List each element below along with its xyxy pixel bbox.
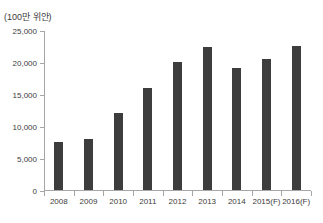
x-tick-label: 2016(F) <box>281 198 311 206</box>
unit-label: (100만 위안) <box>4 10 52 23</box>
x-tick-mark <box>222 191 223 196</box>
x-tick-label: 2015(F) <box>252 198 282 206</box>
bar-chart-figure: (100만 위안) 05,00010,00015,00020,00025,000… <box>0 0 323 223</box>
y-axis <box>44 31 45 191</box>
y-tick-mark <box>40 159 44 160</box>
bar-2014 <box>232 68 241 190</box>
x-tick-mark <box>281 191 282 196</box>
x-tick-mark <box>311 191 312 196</box>
x-axis <box>44 190 311 191</box>
y-tick-mark <box>40 31 44 32</box>
x-tick-mark <box>133 191 134 196</box>
bar-2013 <box>203 47 212 190</box>
x-tick-mark <box>44 191 45 196</box>
bar-2012 <box>173 62 182 190</box>
y-tick-mark <box>40 127 44 128</box>
y-tick-label: 15,000 <box>0 92 37 100</box>
bar-2008 <box>54 142 63 190</box>
y-tick-label: 0 <box>0 188 37 196</box>
x-tick-label: 2012 <box>163 198 193 206</box>
x-tick-mark <box>163 191 164 196</box>
y-tick-mark <box>40 63 44 64</box>
bar-2009 <box>84 139 93 190</box>
x-tick-mark <box>74 191 75 196</box>
x-tick-mark <box>192 191 193 196</box>
bar-2015(F) <box>262 59 271 190</box>
y-tick-label: 5,000 <box>0 156 37 164</box>
x-tick-label: 2013 <box>192 198 222 206</box>
x-tick-label: 2011 <box>133 198 163 206</box>
plot-area: 05,00010,00015,00020,00025,000 200820092… <box>44 31 311 191</box>
bar-2016(F) <box>292 46 301 190</box>
x-tick-label: 2010 <box>103 198 133 206</box>
y-tick-label: 20,000 <box>0 60 37 68</box>
x-tick-label: 2014 <box>222 198 252 206</box>
x-tick-label: 2008 <box>44 198 74 206</box>
bar-2011 <box>143 88 152 190</box>
x-tick-mark <box>103 191 104 196</box>
x-tick-mark <box>252 191 253 196</box>
x-tick-label: 2009 <box>74 198 104 206</box>
y-tick-mark <box>40 95 44 96</box>
y-tick-label: 10,000 <box>0 124 37 132</box>
bar-2010 <box>114 113 123 190</box>
y-tick-label: 25,000 <box>0 28 37 36</box>
